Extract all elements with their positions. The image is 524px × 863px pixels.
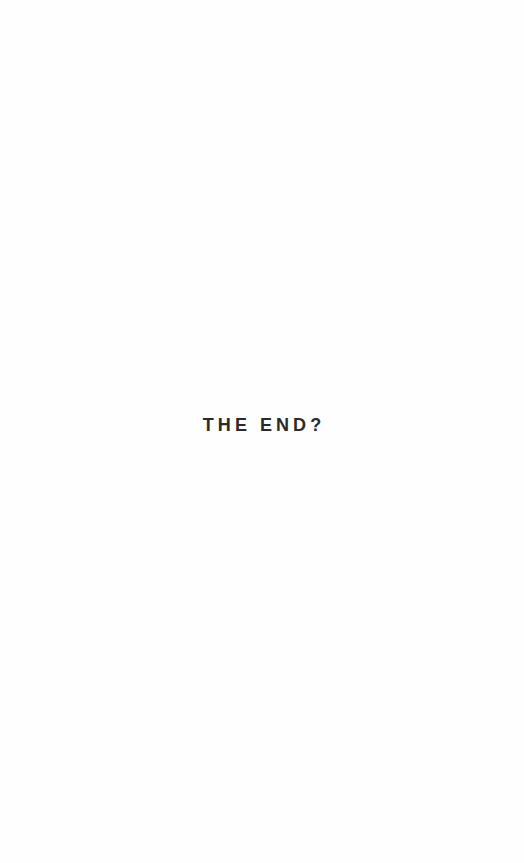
book-page: THE END? xyxy=(0,0,524,863)
the-end-text: THE END? xyxy=(0,416,524,434)
